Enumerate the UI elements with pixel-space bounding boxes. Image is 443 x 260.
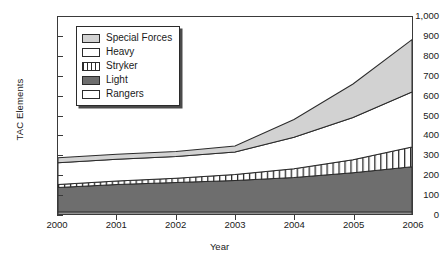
y-axis-tick-label: 500 [387,111,439,121]
x-axis-tick-label: 2004 [264,219,324,230]
x-axis-tick-label: 2000 [27,219,87,230]
stryker-swatch [82,62,100,71]
legend-item-label: Stryker [106,61,138,71]
y-axis-tick-label: 400 [387,130,439,140]
x-axis-tick-label: 2001 [86,219,146,230]
y-axis-tick-label: 100 [387,190,439,200]
x-axis-tick-label: 2003 [205,219,265,230]
y-axis-tick-mark [57,215,63,216]
legend-item[interactable]: Stryker [82,59,172,73]
legend-item[interactable]: Rangers [82,87,172,101]
legend-item-label: Heavy [106,47,134,57]
legend-item[interactable]: Light [82,73,172,87]
y-axis-tick-label: 900 [387,31,439,41]
y-axis-tick-mark [57,56,63,57]
special-forces-swatch [82,34,100,43]
legend: Special ForcesHeavyStrykerLightRangers [76,26,180,106]
legend-item[interactable]: Special Forces [82,31,172,45]
x-axis-tick-label: 2006 [383,219,443,230]
y-axis-tick-label: 800 [387,51,439,61]
y-axis-tick-label: 700 [387,71,439,81]
y-axis-tick-mark [57,76,63,77]
y-axis-tick-mark [57,116,63,117]
legend-item-label: Light [106,75,128,85]
x-axis-tick-mark [294,215,295,220]
legend-item-label: Rangers [106,89,144,99]
x-axis-tick-mark [116,215,117,220]
x-axis-tick-mark [354,215,355,220]
y-axis-tick-label: 200 [387,170,439,180]
legend-item[interactable]: Heavy [82,45,172,59]
x-axis-tick-label: 2002 [146,219,206,230]
y-axis-tick-label: 300 [387,150,439,160]
legend-item-label: Special Forces [106,33,172,43]
heavy-swatch [82,48,100,57]
rangers-swatch [82,90,100,99]
x-axis-title: Year [0,241,439,252]
y-axis-tick-mark [57,195,63,196]
x-axis-tick-label: 2005 [324,219,384,230]
light-swatch [82,76,100,85]
y-axis-tick-label: 1,000 [387,11,439,21]
x-axis-tick-mark [176,215,177,220]
y-axis-tick-mark [57,175,63,176]
y-axis-tick-mark [57,36,63,37]
y-axis-tick-label: 600 [387,91,439,101]
y-axis-tick-mark [57,135,63,136]
x-axis-tick-mark [235,215,236,220]
y-axis-tick-mark [57,155,63,156]
y-axis-tick-mark [57,96,63,97]
